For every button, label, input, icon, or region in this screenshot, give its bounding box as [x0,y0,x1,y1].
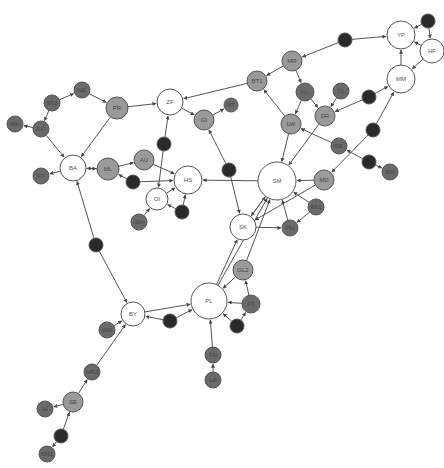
node-label: FT [37,173,45,179]
node-ht: HT [224,98,238,112]
node-label: NL [301,89,309,95]
node-circle [175,205,189,219]
edge-bt1-to-zf [184,83,248,98]
node-layer: YPHFMMMRBT1NLCLDRLWDEEMMDSMBT1PHSKZFHTGI… [7,14,444,462]
node-label: EM [386,169,395,175]
node-ne: NE [74,82,90,98]
node-sh: SH [131,214,147,230]
edge-yp_top-to-yp [414,24,421,28]
edge-hf-to-mm [412,59,423,69]
node-zf: ZF [157,89,183,115]
edge-nl-to-lw [295,100,301,114]
node-mh: MH [7,116,23,132]
node-label: HS [184,177,192,183]
edge-be-to-em [375,165,382,168]
edge-hf-to-yp [414,42,421,46]
node-ml: ML [97,158,119,180]
node-bt1: BT1 [247,71,267,91]
node-circle [362,90,376,104]
edge-gi_dn-to-gi [209,130,226,164]
node-se-dn [54,429,68,443]
edge-bt1b-to-ph [297,212,310,222]
edge-oi-to-hs [166,188,175,193]
node-oi: OI [146,188,168,210]
node-label: BA [69,165,77,171]
edge-se-to-hi [54,404,64,406]
node-circle [338,33,352,47]
node-label: GI [201,117,208,123]
edge-sg-to-ba [46,135,64,157]
node-de: DE [331,138,347,154]
node-gl2: GL2 [233,260,253,280]
edge-zf_dn-to-oi [159,151,164,187]
node-wr: WR [99,322,115,338]
node-mm: MM [387,65,415,93]
edge-sg-to-mh [24,126,33,128]
edge-by-to-pl [145,304,190,312]
edge-pl_dn-to-fs [241,312,246,320]
node-label: MH [10,121,19,127]
edge-ne-to-pr [89,94,106,103]
node-st2: ST2 [44,95,60,111]
node-nh2: NH2 [39,446,55,462]
edge-dr_in-to-dr [335,100,362,112]
node-pl-in [163,314,177,328]
edge-mr_in-to-mr [302,43,338,57]
edge-bt1b-to-sm [294,192,310,202]
node-hr2: HR2 [84,364,100,380]
edge-pr-to-ba [81,117,110,157]
edge-fn-to-pl [210,320,212,347]
node-label: MM [396,76,406,82]
node-circle [163,314,177,328]
edge-mr-to-bt1 [267,66,284,76]
node-circle [230,319,244,333]
node-pr: PR [106,97,128,119]
node-circle [126,175,140,189]
node-label: ZF [166,99,174,105]
node-mr-in [338,33,352,47]
node-dr-in [362,90,376,104]
node-dr: DR [315,106,335,126]
edge-oi_r-to-oi [168,205,176,209]
node-ml-dn [126,175,140,189]
node-fs: FS [242,295,260,313]
node-sm: SM [258,162,296,200]
node-se: SE [63,392,83,412]
node-label: PH [286,225,294,231]
edge-se_dn-to-nh2 [53,442,57,447]
edge-ph-to-sm [282,200,288,220]
edge-se_dn-to-se [63,412,69,429]
node-oi-r [175,205,189,219]
node-mm-dn [366,123,380,137]
node-cl: CL [333,83,349,99]
edge-cl-to-dr [331,98,337,107]
node-label: FS [247,301,255,307]
node-label: CL [337,88,345,94]
edge-lw-to-bt1 [264,90,285,117]
node-ph: PH [282,220,298,236]
node-fn: FN [205,347,221,363]
node-label: SG [37,126,46,132]
node-circle [157,137,171,151]
node-md: MD [314,170,334,190]
edge-mm_dn-to-mm [376,92,393,124]
node-label: SK [239,224,247,230]
edge-ba_dn-to-by [99,251,127,302]
edge-pl_dn-to-pl [223,314,232,322]
node-lr: LR [205,372,221,388]
node-be [362,155,376,169]
node-label: HI [42,406,48,412]
node-lw: LW [281,114,301,134]
node-au: AU [134,150,154,170]
node-label: NH2 [41,451,54,457]
edge-de-to-lw [301,129,332,143]
network-diagram: YPHFMMMRBT1NLCLDRLWDEEMMDSMBT1PHSKZFHTGI… [0,0,444,468]
edge-fs-to-pl [228,302,242,303]
edge-st2-to-ne [59,94,73,100]
node-ba: BA [60,155,86,181]
node-label: NE [78,87,86,93]
node-hs: HS [174,166,202,194]
node-label: YP [397,32,405,38]
node-gi: GI [194,110,214,130]
node-label: MD [319,177,329,183]
